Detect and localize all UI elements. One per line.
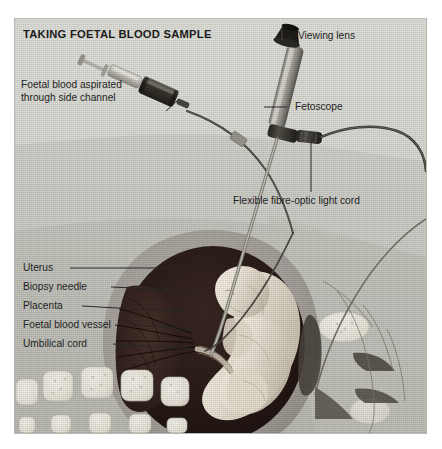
leader-biopsy-needle xyxy=(111,287,198,291)
label-fetoscope: Fetoscope xyxy=(295,101,343,113)
label-foetal-blood-aspirated: Foetal blood aspirated through side chan… xyxy=(21,79,122,104)
leader-placenta xyxy=(82,306,187,312)
leader-umbilical-cord xyxy=(113,344,195,349)
illustration-plate: TAKING FOETAL BLOOD SAMPLE Foetal blood … xyxy=(14,18,427,434)
label-foetal-blood-aspirated-line1: Foetal blood aspirated xyxy=(21,79,122,92)
label-placenta: Placenta xyxy=(23,300,63,312)
illustration-title: TAKING FOETAL BLOOD SAMPLE xyxy=(23,28,212,40)
label-viewing-lens: Viewing lens xyxy=(298,30,355,42)
label-umbilical-cord: Umbilical cord xyxy=(23,338,87,350)
label-biopsy-needle: Biopsy needle xyxy=(23,281,87,293)
label-uterus: Uterus xyxy=(23,262,53,274)
leader-foetal-blood-vessel xyxy=(132,325,193,329)
label-foetal-blood-aspirated-line2: through side channel xyxy=(21,92,122,105)
leader-foetal-blood-aspirated xyxy=(166,99,179,111)
illustration-page: TAKING FOETAL BLOOD SAMPLE Foetal blood … xyxy=(0,0,442,449)
label-light-cord: Flexible fibre-optic light cord xyxy=(233,195,360,207)
label-foetal-blood-vessel: Foetal blood vessel xyxy=(23,319,111,331)
